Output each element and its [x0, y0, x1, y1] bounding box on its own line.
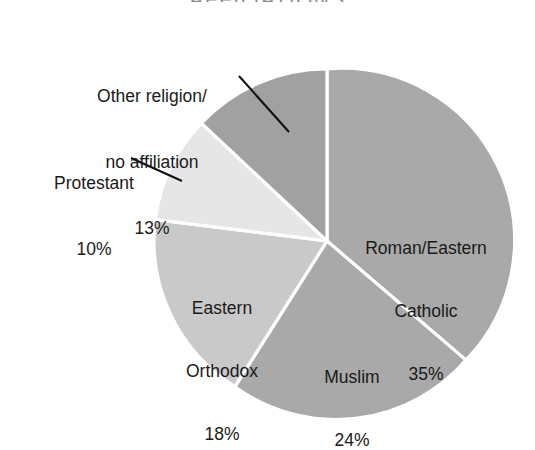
slice-value-muslim: 24%	[297, 430, 407, 450]
slice-label-muslim-line1: Muslim	[297, 367, 407, 388]
slice-label-other-line1: Other religion/	[62, 85, 242, 107]
slice-value-orthodox: 18%	[160, 424, 284, 445]
slice-label-orthodox-line2: Orthodox	[160, 361, 284, 382]
slice-label-other-line2: no affiliation	[62, 151, 242, 173]
slice-label-orthodox-line1: Eastern	[160, 298, 284, 319]
slice-value-other: 13%	[62, 217, 242, 239]
slice-label-other-religion: Other religion/ no affiliation 13%	[62, 41, 242, 283]
slice-label-orthodox: Eastern Orthodox 18%	[160, 256, 284, 450]
slice-label-muslim: Muslim 24%	[297, 325, 407, 450]
slice-label-catholic-line2: Catholic	[341, 301, 511, 322]
slice-label-catholic-line1: Roman/Eastern	[341, 238, 511, 259]
